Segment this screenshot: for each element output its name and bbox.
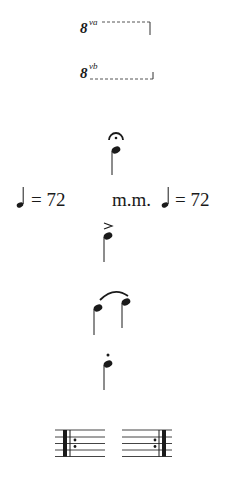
ottava-alta-dashed-line [80, 18, 155, 38]
accent-icon [104, 223, 112, 229]
staccato-note [100, 350, 120, 400]
repeat-start-icon [55, 427, 105, 463]
quarter-note-icon [103, 359, 114, 390]
quarter-note-icon [161, 185, 171, 209]
tempo-right-value: = 72 [175, 190, 209, 209]
staccato-icon [107, 354, 110, 357]
ottava-alta: 8 va [80, 18, 155, 38]
quarter-note-icon [121, 297, 132, 328]
fermata-icon [109, 133, 123, 140]
quarter-note-icon [103, 231, 114, 262]
quarter-note-icon [111, 145, 122, 175]
tie-icon [100, 292, 128, 300]
tied-notes [90, 282, 140, 342]
quarter-note-icon [16, 185, 26, 209]
ottava-bassa: 8 vb [80, 62, 160, 82]
accent-note [100, 220, 120, 270]
tempo-left-value: = 72 [31, 190, 65, 209]
fermata-note [106, 128, 126, 178]
quarter-note-icon [93, 303, 104, 335]
metronome-mark-prefix: m.m. [112, 190, 151, 209]
repeat-end-icon [122, 427, 172, 463]
ottava-bassa-dashed-line [80, 62, 160, 82]
